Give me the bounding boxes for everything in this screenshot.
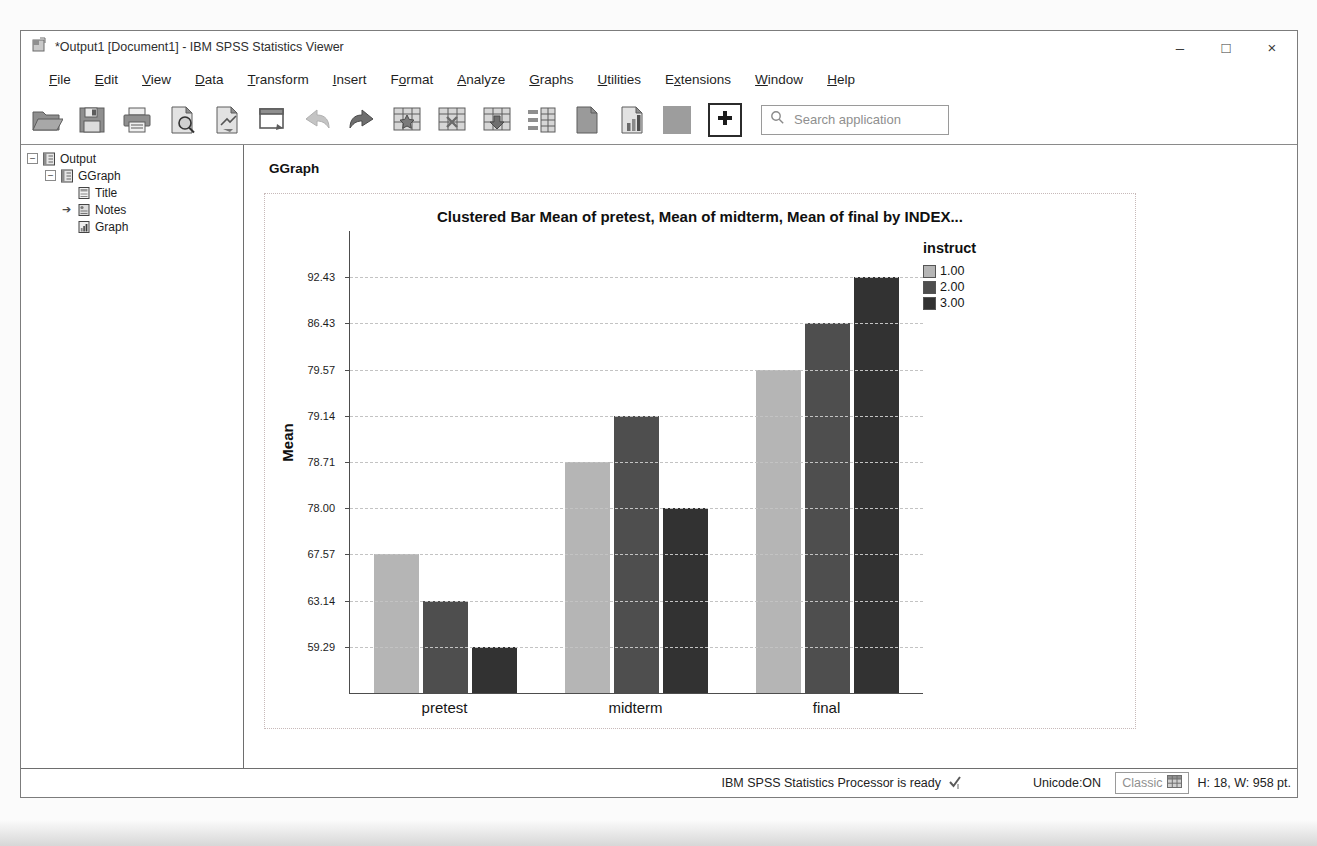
title-bar: *Output1 [Document1] - IBM SPSS Statisti…: [21, 31, 1297, 63]
menu-help[interactable]: Help: [815, 69, 867, 90]
menu-bar: FileEditViewDataTransformInsertFormatAna…: [21, 63, 1297, 95]
y-tick-label: 79.14: [307, 410, 335, 422]
y-axis-tick-labels: 59.2963.1467.5778.0078.7179.1479.5786.43…: [265, 231, 343, 693]
x-category-label-midterm: midterm: [540, 699, 731, 716]
print-icon[interactable]: [119, 101, 155, 139]
chart-object[interactable]: Clustered Bar Mean of pretest, Mean of m…: [264, 193, 1136, 729]
output-heading: GGraph: [269, 161, 319, 176]
search-input[interactable]: [792, 111, 936, 128]
legend-label: 1.00: [940, 264, 964, 278]
maximize-button[interactable]: □: [1203, 31, 1249, 63]
tree-item-label: Notes: [95, 203, 126, 217]
y-tick-label: 67.57: [307, 548, 335, 560]
x-axis-labels: pretestmidtermfinal: [349, 699, 922, 716]
unicode-status: Unicode:ON: [1033, 776, 1101, 790]
plot-area: [349, 231, 923, 694]
bar-final-1.00[interactable]: [756, 370, 801, 693]
main-area: –Output–GGraphTitle➔NotesGraph GGraph Cl…: [21, 145, 1297, 768]
bar-final-3.00[interactable]: [854, 277, 899, 693]
menu-transform[interactable]: Transform: [236, 69, 321, 90]
tree-item-label: Output: [60, 152, 96, 166]
y-tick-label: 92.43: [307, 271, 335, 283]
output-content-pane[interactable]: GGraph Clustered Bar Mean of pretest, Me…: [243, 145, 1297, 768]
add-toolbar-button[interactable]: [708, 103, 742, 137]
menu-window[interactable]: Window: [743, 69, 815, 90]
variables-icon[interactable]: [479, 101, 515, 139]
menu-extensions[interactable]: Extensions: [653, 69, 743, 90]
open-icon[interactable]: [29, 101, 65, 139]
y-tick-mark: [345, 416, 350, 417]
tree-item-output[interactable]: –Output: [21, 150, 243, 167]
gridline: [350, 370, 923, 371]
gridline: [350, 508, 923, 509]
output-book-icon: [42, 152, 56, 166]
tree-item-title[interactable]: Title: [21, 184, 243, 201]
legend-swatch-icon: [923, 265, 936, 278]
current-item-arrow-icon: ➔: [59, 203, 73, 216]
menu-analyze[interactable]: Analyze: [445, 69, 517, 90]
collapse-expander[interactable]: –: [45, 170, 56, 181]
minimize-button[interactable]: –: [1157, 31, 1203, 63]
bar-pretest-3.00[interactable]: [472, 647, 517, 693]
x-category-label-pretest: pretest: [349, 699, 540, 716]
collapse-expander[interactable]: –: [27, 153, 38, 164]
menu-file[interactable]: File: [37, 69, 83, 90]
outline-tree: –Output–GGraphTitle➔NotesGraph: [21, 145, 243, 768]
menu-edit[interactable]: Edit: [83, 69, 130, 90]
tree-item-ggraph[interactable]: –GGraph: [21, 167, 243, 184]
gridline: [350, 323, 923, 324]
tree-item-notes[interactable]: ➔Notes: [21, 201, 243, 218]
gridline: [350, 462, 923, 463]
close-button[interactable]: ×: [1249, 31, 1295, 63]
legend-label: 2.00: [940, 280, 964, 294]
table-style-icon: [1167, 775, 1182, 791]
y-tick-label: 59.29: [307, 641, 335, 653]
chart-title: Clustered Bar Mean of pretest, Mean of m…: [355, 208, 1045, 225]
menu-insert[interactable]: Insert: [321, 69, 379, 90]
export-icon[interactable]: [209, 101, 245, 139]
goto-variable-icon[interactable]: [434, 101, 470, 139]
legend-entry-3.00: 3.00: [923, 295, 976, 311]
y-tick-mark: [345, 554, 350, 555]
y-tick-label: 78.71: [307, 456, 335, 468]
save-icon[interactable]: [74, 101, 110, 139]
gridline: [350, 601, 923, 602]
y-tick-label: 79.57: [307, 364, 335, 376]
redo-icon[interactable]: [344, 101, 380, 139]
tree-item-label: Title: [95, 186, 117, 200]
menu-view[interactable]: View: [130, 69, 183, 90]
processor-ready-icon: [947, 774, 963, 793]
menu-data[interactable]: Data: [183, 69, 236, 90]
gridline: [350, 554, 923, 555]
undo-icon[interactable]: [299, 101, 335, 139]
swatch-icon[interactable]: [659, 101, 695, 139]
use-sets-icon[interactable]: [524, 101, 560, 139]
output-style-selector[interactable]: Classic: [1115, 772, 1189, 794]
legend-label: 3.00: [940, 296, 964, 310]
y-tick-mark: [345, 323, 350, 324]
menu-format[interactable]: Format: [378, 69, 445, 90]
gridline: [350, 416, 923, 417]
tree-item-label: Graph: [95, 220, 128, 234]
page-background: *Output1 [Document1] - IBM SPSS Statisti…: [0, 0, 1317, 846]
chart-document-icon[interactable]: [614, 101, 650, 139]
gridline: [350, 277, 923, 278]
search-field[interactable]: [761, 105, 949, 135]
notes-page-icon: [77, 203, 91, 217]
menu-utilities[interactable]: Utilities: [586, 69, 654, 90]
print-preview-icon[interactable]: [164, 101, 200, 139]
legend-swatch-icon: [923, 281, 936, 294]
y-tick-label: 78.00: [307, 502, 335, 514]
toolbar: [21, 95, 1297, 145]
menu-graphs[interactable]: Graphs: [517, 69, 585, 90]
goto-case-icon[interactable]: [389, 101, 425, 139]
plus-icon: [717, 110, 733, 130]
tree-item-label: GGraph: [78, 169, 121, 183]
legend-entry-1.00: 1.00: [923, 263, 976, 279]
document-icon[interactable]: [569, 101, 605, 139]
tree-item-graph[interactable]: Graph: [21, 218, 243, 235]
bar-pretest-1.00[interactable]: [374, 554, 419, 693]
bar-midterm-1.00[interactable]: [565, 462, 610, 693]
graph-page-icon: [77, 220, 91, 234]
recall-dialogs-icon[interactable]: [254, 101, 290, 139]
